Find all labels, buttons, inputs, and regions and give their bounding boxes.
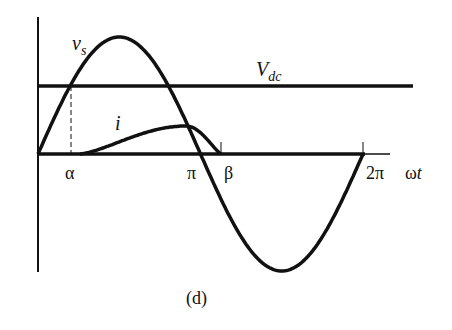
rectifier-waveform-diagram: vs Vdc i α π β 2π ωt (d): [0, 0, 452, 330]
alpha-label: α: [65, 163, 75, 183]
figure-caption: (d): [186, 288, 207, 309]
pi-label: π: [187, 163, 196, 183]
vdc-label: Vdc: [256, 58, 282, 84]
two-pi-label: 2π: [366, 163, 384, 183]
omega-t-label: ωt: [405, 163, 423, 183]
vs-label: vs: [72, 32, 87, 58]
beta-label: β: [224, 163, 233, 183]
current-label: i: [115, 112, 121, 134]
